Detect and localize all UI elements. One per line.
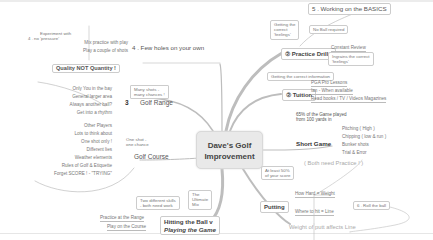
range-item-2[interactable]: General larger area: [40, 94, 112, 100]
ingrains-line2: 'feelings': [332, 59, 370, 64]
few-holes-item-1[interactable]: Mix practice with play: [60, 40, 128, 46]
putting-item-2[interactable]: Where to hit = Line: [295, 209, 334, 216]
short-game-item-3[interactable]: Bunker shots: [342, 142, 369, 148]
course-item-1[interactable]: Other Players: [40, 123, 112, 129]
course-item-3[interactable]: One shot only !: [40, 139, 112, 145]
short-game-item-1[interactable]: Pitching ( High ): [342, 126, 375, 132]
mind-map-canvas: Dave's Golf Improvement Experiment with …: [0, 0, 433, 240]
correct-feelings-line3: 'feelings': [274, 32, 295, 37]
hitting-item-2[interactable]: Play on the Course: [107, 224, 146, 231]
numbered-icon: ②: [285, 51, 290, 57]
many-shots-note[interactable]: Many shots - many chances !: [130, 85, 169, 99]
golf-range-number: 3: [125, 99, 129, 107]
basics-topic[interactable]: 5 . Working on the BASICS: [308, 3, 391, 15]
few-holes-item-2[interactable]: Play a couple of shots: [60, 48, 128, 54]
central-topic[interactable]: Dave's Golf Improvement: [196, 131, 263, 169]
ingrains-note[interactable]: Ingrains the correct 'feelings': [328, 52, 374, 66]
both-need-practice-note: ( Both need Practice ! ): [304, 160, 363, 166]
golf-range-topic[interactable]: Golf Range: [140, 99, 173, 107]
course-item-2[interactable]: Lots to think about: [40, 131, 112, 137]
hitting-title-line1: Hitting the Ball v: [164, 218, 216, 226]
practice-item-1[interactable]: Constant Review: [331, 45, 366, 52]
hitting-title-line2: Playing the Game: [164, 226, 216, 234]
range-item-4[interactable]: Get into a rhythm: [40, 110, 112, 116]
roll-the-ball-note[interactable]: 6 . Roll the ball: [353, 201, 390, 210]
central-topic-line1: Dave's Golf: [197, 140, 262, 151]
course-item-7[interactable]: Forget SCORE ! - "TRYING": [20, 171, 112, 177]
course-item-5[interactable]: Weather elements: [40, 155, 112, 161]
range-item-1[interactable]: Only You in the bay: [40, 86, 112, 92]
numbered-icon: ②: [286, 92, 291, 98]
at-least-50-line2: of your score: [265, 173, 290, 178]
tuition-item-1[interactable]: PGA Pro Lessons: [311, 80, 347, 87]
tuition-item-2[interactable]: Ian - When available: [311, 88, 353, 95]
short-game-note: 65% of the Game played from 100 yards in: [296, 112, 347, 122]
short-game-item-2[interactable]: Chipping ( low & run ): [342, 134, 386, 140]
central-topic-line2: Improvement: [197, 151, 262, 162]
tuition-label: Tuition: [293, 92, 313, 98]
at-least-50-note[interactable]: At least 50% of your score: [261, 166, 294, 180]
ultimate-mix-note[interactable]: The Ultimate Mix: [188, 190, 212, 210]
quality-not-quantity[interactable]: Quality NOT Quantity !: [52, 64, 120, 73]
short-game-topic[interactable]: Short Game: [296, 140, 331, 148]
putting-topic[interactable]: Putting: [260, 201, 289, 213]
weight-affects-line-note: Weight of putt affects Line: [289, 224, 356, 230]
many-shots-line2: many chances !: [134, 92, 165, 97]
range-item-3[interactable]: Always another ball?: [40, 102, 112, 108]
golf-course-topic[interactable]: Golf Course: [134, 153, 169, 161]
practice-drills-label: Practice Drills: [292, 51, 332, 57]
hitting-item-1[interactable]: Practice at the Range: [100, 215, 144, 222]
course-item-6[interactable]: Rules of Golf & Etiquette: [30, 163, 112, 169]
short-game-item-4[interactable]: Trial & Error: [342, 150, 367, 156]
ultimate-mix-line3: Mix: [192, 202, 208, 207]
hitting-topic[interactable]: Hitting the Ball v Playing the Game: [160, 216, 220, 235]
putting-item-1[interactable]: How Hard = Weight: [295, 191, 335, 198]
one-shot-note[interactable]: One shot - one chance: [123, 136, 152, 148]
course-item-4[interactable]: Different lies: [40, 147, 112, 153]
few-holes-topic[interactable]: 4 . Few holes on your own: [132, 44, 204, 52]
short-game-note-line2: from 100 yards in: [296, 117, 347, 122]
one-shot-line2: one chance: [126, 142, 149, 147]
two-skills-note[interactable]: Two different skills - both need work: [136, 196, 180, 210]
correct-feelings-note[interactable]: Getting the correct 'feelings': [270, 20, 299, 40]
two-skills-line2: - both need work: [140, 203, 176, 208]
no-ball-note[interactable]: No Ball required: [309, 25, 348, 34]
tuition-item-3[interactable]: Read books / TV / Videos Magazines: [311, 96, 386, 103]
